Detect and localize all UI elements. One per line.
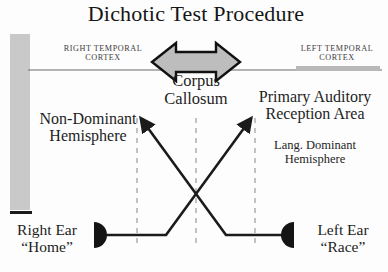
right-ear-label: Right Ear “Home”: [17, 222, 77, 255]
left-temporal-cortex-label: LEFT TEMPORAL CORTEX: [301, 45, 374, 63]
left-ear-crossed-pathway: [145, 124, 294, 235]
primary-auditory-reception-area-label: Primary Auditory Reception Area: [259, 88, 371, 123]
right-ear-marker: [94, 222, 107, 248]
right-temporal-cortex-label: RIGHT TEMPORAL CORTEX: [64, 45, 143, 63]
dichotic-test-procedure-figure: Dichotic Test Procedure RIGHT TEMPORAL C…: [0, 0, 388, 272]
lang-dominant-line-1: Lang. Dominant: [274, 139, 356, 153]
right-ear-line-1: Right Ear: [17, 222, 77, 239]
corpus-callosum-line-2: Callosum: [164, 90, 227, 108]
primary-auditory-line-2: Reception Area: [259, 105, 371, 122]
non-dominant-line-1: Non-Dominant: [40, 110, 137, 127]
page-title: Dichotic Test Procedure: [88, 2, 304, 26]
right-ear-line-2: “Home”: [17, 239, 77, 256]
non-dominant-line-2: Hemisphere: [40, 127, 137, 144]
right-hemisphere-baseline: [10, 211, 32, 214]
left-ear-marker: [281, 222, 294, 248]
left-ear-line-1: Left Ear: [317, 222, 368, 239]
language-dominant-hemisphere-label: Lang. Dominant Hemisphere: [274, 139, 356, 166]
left-ear-label: Left Ear “Race”: [317, 222, 368, 255]
non-dominant-hemisphere-label: Non-Dominant Hemisphere: [40, 110, 137, 145]
right-temporal-cortex-line-2: CORTEX: [64, 54, 143, 63]
corpus-callosum-line-1: Corpus: [164, 72, 227, 90]
left-temporal-cortex-line-2: CORTEX: [301, 54, 374, 63]
left-ear-line-2: “Race”: [317, 239, 368, 256]
primary-auditory-line-1: Primary Auditory: [259, 88, 371, 105]
right-hemisphere-gray-bar: [10, 34, 30, 210]
lang-dominant-line-2: Hemisphere: [274, 153, 356, 167]
left-temporal-gray-bar: [296, 66, 380, 71]
corpus-callosum-label: Corpus Callosum: [164, 72, 227, 108]
